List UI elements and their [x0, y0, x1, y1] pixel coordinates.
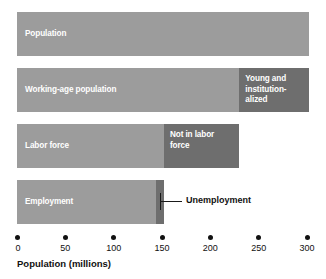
x-tick-label-250: 250 [251, 243, 266, 253]
x-tick-label-150: 150 [154, 243, 169, 253]
labor-force-row: Labor forceNot in labor force [0, 124, 326, 168]
working-age-row-segment-0: Working-age population [17, 68, 239, 112]
employment-row: Employment [0, 180, 326, 224]
x-tick-label-100: 100 [106, 243, 121, 253]
population-row-segment-0-label: Population [25, 29, 66, 40]
x-tick-dot-300 [305, 235, 310, 240]
unemployment-callout-leader-line [160, 201, 182, 202]
labor-force-row-segment-1-label: Not in labor force [170, 130, 236, 151]
x-tick-label-0: 0 [15, 243, 20, 253]
employment-row-segment-0: Employment [17, 180, 156, 224]
x-tick-label-300: 300 [299, 243, 314, 253]
working-age-row-segment-1: Young and institution- alized [239, 68, 309, 112]
working-age-row: Working-age populationYoung and institut… [0, 68, 326, 112]
plot-area: PopulationWorking-age populationYoung an… [0, 0, 326, 232]
employment-row-segment-0-label: Employment [25, 197, 73, 208]
x-tick-dot-150 [160, 235, 165, 240]
unemployment-callout-leader-tick [160, 193, 161, 210]
x-tick-label-200: 200 [203, 243, 218, 253]
labor-force-row-segment-0-label: Labor force [25, 141, 69, 152]
x-axis-title: Population (millions) [17, 258, 111, 269]
working-age-row-segment-1-label: Young and institution- alized [245, 74, 306, 106]
x-tick-dot-50 [63, 235, 68, 240]
labor-force-row-segment-1: Not in labor force [164, 124, 239, 168]
unemployment-callout: Unemployment [186, 195, 251, 205]
x-axis: Population (millions) 050100150200250300 [0, 232, 326, 279]
x-tick-dot-200 [208, 235, 213, 240]
x-tick-dot-0 [15, 235, 20, 240]
population-stacked-bar-chart: PopulationWorking-age populationYoung an… [0, 0, 326, 279]
population-row: Population [0, 12, 326, 56]
population-row-segment-0: Population [17, 12, 309, 56]
working-age-row-segment-0-label: Working-age population [25, 85, 116, 96]
labor-force-row-segment-0: Labor force [17, 124, 164, 168]
x-tick-dot-100 [111, 235, 116, 240]
x-tick-dot-250 [256, 235, 261, 240]
x-tick-label-50: 50 [60, 243, 70, 253]
